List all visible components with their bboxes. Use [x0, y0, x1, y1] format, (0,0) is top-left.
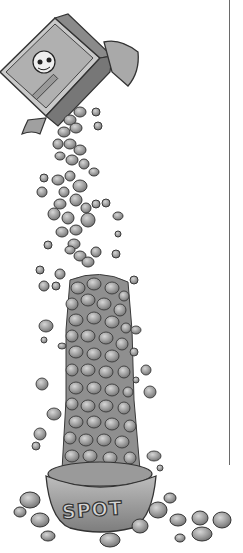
illustration: SPOT: [0, 0, 243, 553]
bowl-label-text: SPOT: [61, 496, 123, 522]
vertical-rule-line: [229, 0, 230, 465]
kibble-column: [32, 274, 163, 471]
kibble-stream: [36, 107, 138, 291]
